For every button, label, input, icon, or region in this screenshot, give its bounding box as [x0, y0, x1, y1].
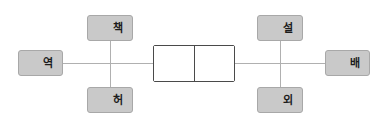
node-label-right-outer: 배	[350, 58, 360, 69]
node-label-right-bottom: 외	[283, 95, 293, 106]
node-label-left-top: 책	[113, 23, 123, 34]
node-box-left-outer[interactable]: 역	[18, 50, 63, 76]
connector-line-right-vertical	[280, 40, 281, 88]
node-label-right-top: 설	[283, 23, 293, 34]
node-box-left-bottom[interactable]: 허	[87, 87, 133, 113]
connector-line-left-horizontal	[62, 63, 154, 64]
diagram-canvas: 역 책 허 설 외 배	[0, 0, 386, 125]
node-label-left-outer: 역	[43, 58, 53, 69]
node-box-left-top[interactable]: 책	[87, 15, 133, 41]
node-box-right-bottom[interactable]: 외	[257, 87, 303, 113]
node-label-left-bottom: 허	[113, 95, 123, 106]
center-cell-right	[195, 46, 235, 81]
center-cell-left	[154, 46, 195, 81]
node-box-right-top[interactable]: 설	[257, 15, 303, 41]
node-box-right-outer[interactable]: 배	[325, 50, 370, 76]
center-composite-box	[153, 45, 235, 82]
connector-line-left-vertical	[110, 40, 111, 88]
